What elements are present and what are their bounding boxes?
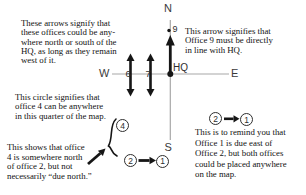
office4-circle: 4 — [116, 119, 129, 132]
office2-circle: 2 — [124, 154, 137, 167]
reminder-office2-circle: 2 — [209, 112, 222, 125]
office9-note: This arrow signifies that Office 9 must … — [185, 27, 273, 55]
reminder-note: This is to remind you that Office 1 is d… — [195, 127, 287, 180]
office4-number: 4 — [120, 121, 125, 131]
compass-west-label: W — [99, 67, 109, 79]
office9-label: 9 — [173, 24, 178, 34]
hq-label: HQ — [173, 62, 188, 73]
office6-label: 6 — [126, 68, 131, 79]
reminder-arrow — [224, 115, 240, 122]
compass-south-label: S — [165, 141, 172, 153]
office9-dot — [167, 29, 170, 32]
north-of-office2-note: This shows that office 4 is somewhere no… — [7, 143, 92, 181]
office7-label: 7 — [146, 68, 151, 79]
office1-circle: 1 — [156, 155, 169, 168]
west-arrows-note: These arrows signify that these offices … — [21, 19, 117, 65]
reminder-office2-number: 2 — [213, 114, 218, 124]
reminder-office1-number: 1 — [244, 115, 249, 125]
office2-to-office1-arrow — [139, 157, 157, 165]
circle4-note: This circle signifies that office 4 can … — [15, 93, 106, 121]
office2-number: 2 — [128, 156, 133, 166]
map-diagram: N S W E HQ 6 7 9 4 2 1 2 1 These arrows … — [0, 0, 306, 195]
compass-east-label: E — [231, 67, 238, 79]
reminder-office1-circle: 1 — [240, 113, 253, 126]
compass-north-label: N — [164, 2, 172, 14]
office1-number: 1 — [160, 156, 165, 166]
